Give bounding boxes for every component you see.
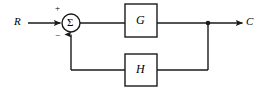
positive-sign-label: + [55,4,60,13]
negative-sign-label: − [55,31,60,40]
summation-symbol: Σ [67,17,73,28]
input-signal-label: R [14,16,21,27]
output-takeoff-node-dot [206,21,211,26]
forward-path-block-label: G [136,14,145,26]
block-diagram-graphics [0,0,268,93]
output-signal-label: C [246,16,253,27]
block-diagram-canvas: R C G H + − Σ [0,0,268,93]
feedback-path-block-label: H [136,63,145,75]
